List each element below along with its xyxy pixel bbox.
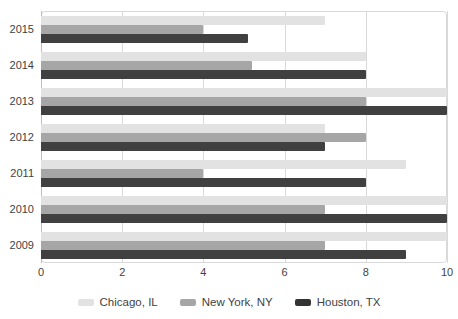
bar-2012-chicago-il (41, 124, 325, 133)
bar-2013-chicago-il (41, 88, 447, 97)
bar-group-2014 (41, 52, 447, 79)
legend-swatch-icon (78, 299, 94, 306)
bar-2015-new-york-ny (41, 25, 203, 34)
y-axis-label-2011: 2011 (10, 167, 34, 179)
y-axis-category-labels: 2015201420132012201120102009 (0, 11, 38, 263)
bar-group-2009 (41, 232, 447, 259)
y-axis-label-2013: 2013 (10, 95, 34, 107)
bar-2011-new-york-ny (41, 169, 203, 178)
bar-2012-houston-tx (41, 142, 325, 151)
legend-swatch-icon (180, 299, 196, 306)
bar-2013-new-york-ny (41, 97, 366, 106)
gridline-x-10 (447, 11, 448, 263)
y-axis-label-2009: 2009 (10, 239, 34, 251)
bar-2011-chicago-il (41, 160, 406, 169)
x-axis-tick-8: 8 (363, 266, 369, 279)
legend-label: Chicago, IL (100, 296, 158, 309)
bar-2014-new-york-ny (41, 61, 252, 70)
bar-group-2011 (41, 160, 447, 187)
bar-group-2012 (41, 124, 447, 151)
y-axis-label-2012: 2012 (10, 131, 34, 143)
bar-2009-new-york-ny (41, 241, 325, 250)
legend-label: New York, NY (202, 296, 273, 309)
x-axis-tick-0: 0 (38, 266, 44, 279)
legend-label: Houston, TX (317, 296, 381, 309)
legend-item-new-york-ny[interactable]: New York, NY (180, 296, 273, 309)
bar-group-2013 (41, 88, 447, 115)
x-axis-tick-labels: 0246810 (0, 266, 458, 284)
bar-2013-houston-tx (41, 106, 447, 115)
bars-layer (41, 11, 447, 263)
bar-2010-chicago-il (41, 196, 447, 205)
x-axis-tick-4: 4 (200, 266, 206, 279)
bar-chart: 2015201420132012201120102009 0246810 Chi… (0, 0, 458, 319)
bar-group-2015 (41, 16, 447, 43)
bar-2015-chicago-il (41, 16, 325, 25)
bar-2014-chicago-il (41, 52, 366, 61)
legend-item-chicago-il[interactable]: Chicago, IL (78, 296, 158, 309)
chart-legend: Chicago, ILNew York, NYHouston, TX (0, 292, 458, 312)
bar-2009-chicago-il (41, 232, 447, 241)
y-axis-label-2014: 2014 (10, 59, 34, 71)
legend-swatch-icon (295, 299, 311, 306)
bar-2009-houston-tx (41, 250, 406, 259)
bar-2010-new-york-ny (41, 205, 325, 214)
chart-title-cropped (250, 0, 450, 5)
x-axis-tick-10: 10 (441, 266, 453, 279)
bar-2014-houston-tx (41, 70, 366, 79)
y-axis-label-2015: 2015 (10, 23, 34, 35)
bar-2012-new-york-ny (41, 133, 366, 142)
bar-2010-houston-tx (41, 214, 447, 223)
legend-item-houston-tx[interactable]: Houston, TX (295, 296, 381, 309)
y-axis-label-2010: 2010 (10, 203, 34, 215)
x-axis-tick-2: 2 (119, 266, 125, 279)
bar-2011-houston-tx (41, 178, 366, 187)
bar-2015-houston-tx (41, 34, 248, 43)
bar-group-2010 (41, 196, 447, 223)
x-axis-tick-6: 6 (282, 266, 288, 279)
